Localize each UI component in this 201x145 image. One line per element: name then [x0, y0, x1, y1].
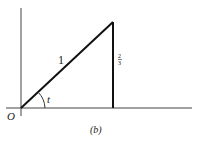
origin-label: O	[7, 110, 15, 122]
hypotenuse-line	[21, 22, 113, 108]
opposite-label-denominator: 3	[118, 60, 121, 66]
figure-caption: (b)	[90, 124, 102, 136]
angle-label: t	[47, 93, 51, 105]
angle-arc	[38, 92, 45, 108]
right-triangle-diagram: 1 t O 2 3 (b)	[0, 0, 201, 145]
hypotenuse-label: 1	[58, 53, 64, 67]
opposite-label-numerator: 2	[118, 53, 121, 59]
